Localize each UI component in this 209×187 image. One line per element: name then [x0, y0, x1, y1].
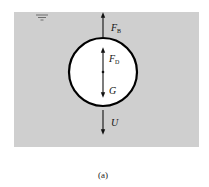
- figure-caption: (a): [98, 170, 108, 180]
- velocity-label: U: [111, 117, 119, 128]
- gravity-label: G: [109, 85, 116, 96]
- sphere-force-diagram: FB FD G U (a): [0, 0, 209, 187]
